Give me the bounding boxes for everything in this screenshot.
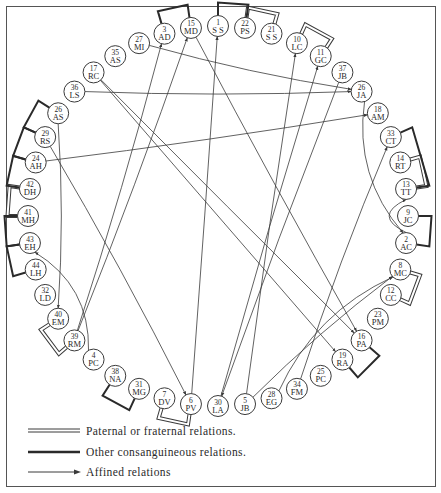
person-node: 36LS (64, 81, 85, 102)
node-initials: CC (385, 293, 397, 303)
person-node: 31MG (129, 378, 150, 399)
affined-relation-arrow (100, 80, 335, 351)
person-node: 27MI (129, 33, 150, 54)
person-node: 26JA (351, 81, 372, 102)
node-initials: LS (69, 90, 79, 100)
person-node: 19RA (332, 349, 353, 370)
node-initials: AS (53, 112, 64, 122)
person-node: 15MD (180, 17, 201, 38)
affined-relation-arrow (221, 66, 318, 396)
node-initials: PM (372, 317, 385, 327)
person-node: 22PS (235, 17, 256, 38)
person-node: 8MC (390, 259, 411, 280)
person-node: 21S S (261, 23, 282, 44)
legend-item-affined: Affined relations (28, 466, 171, 478)
legend-item-consanguineous: Other consanguineous relations. (28, 446, 246, 458)
node-initials: EM (52, 317, 65, 327)
node-initials: PS (240, 26, 250, 36)
node-initials: DV (158, 397, 171, 407)
affined-relation-arrow (50, 146, 186, 395)
node-initials: NA (109, 374, 122, 384)
person-node: 11GC (310, 46, 331, 67)
person-node: 41MH (18, 206, 39, 227)
person-node: 28EG (261, 388, 282, 409)
node-initials: RA (337, 358, 350, 368)
node-initials: DH (24, 187, 36, 197)
node-initials: PV (186, 403, 198, 413)
node-initials: AH (30, 161, 42, 171)
node-initials: RM (68, 339, 82, 349)
paternal-relations-layer (8, 8, 427, 425)
node-initials: LA (212, 405, 224, 415)
person-node: 26AS (48, 103, 69, 124)
person-node: 14RT (390, 152, 411, 173)
consanguineous-relation-line (218, 3, 248, 18)
node-initials: LC (291, 42, 302, 52)
node-initials: CT (385, 136, 397, 146)
person-node: 12CC (380, 284, 401, 305)
node-initials: AD (158, 32, 170, 42)
affined-relation-arrow (77, 44, 161, 331)
node-initials: S S (266, 32, 278, 42)
person-node: 13TT (396, 178, 417, 199)
affined-relation-arrow (85, 92, 351, 94)
person-node: 23PM (367, 308, 388, 329)
node-initials: PC (88, 358, 99, 368)
affined-relations-layer (35, 36, 406, 397)
affined-relation-arrow (301, 147, 388, 379)
affined-relation-arrow (247, 54, 296, 394)
node-initials: MH (21, 215, 35, 225)
person-node: 39RM (64, 330, 85, 351)
node-initials: LD (39, 293, 50, 303)
consanguineous-relation-line (5, 216, 20, 246)
node-initials: FM (291, 387, 304, 397)
person-node: 3AD (154, 23, 175, 44)
person-node: 9JC (398, 206, 419, 227)
legend-label-paternal: Paternal or fraternal relations. (86, 425, 236, 437)
legend-label-affined: Affined relations (86, 466, 171, 478)
node-initials: AC (400, 242, 412, 252)
node-initials: JA (357, 90, 367, 100)
person-node: 2AC (396, 233, 417, 254)
person-node: 40EM (48, 308, 69, 329)
thick-line-icon (28, 448, 82, 456)
person-node: 35AS (105, 46, 126, 67)
node-initials: AM (371, 112, 385, 122)
node-initials: PA (357, 339, 368, 349)
legend-label-consanguineous: Other consanguineous relations. (86, 446, 246, 458)
node-initials: JC (404, 215, 413, 225)
node-initials: RT (395, 161, 406, 171)
node-initials: MC (394, 268, 408, 278)
person-node: 37JB (332, 62, 353, 83)
person-node: 38NA (105, 365, 126, 386)
person-node: 18AM (367, 103, 388, 124)
affined-relation-arrow (101, 80, 354, 333)
person-node: 29RS (35, 127, 56, 148)
node-initials: MI (134, 42, 145, 52)
node-initials: MG (132, 387, 146, 397)
node-initials: AS (110, 55, 121, 65)
person-node: 43EH (19, 233, 40, 254)
affined-relation-arrow (222, 82, 339, 396)
arrow-line-icon (28, 468, 82, 476)
person-node: 44LH (25, 259, 46, 280)
node-initials: RS (40, 136, 51, 146)
node-initials: PC (316, 374, 327, 384)
node-initials: RC (88, 71, 100, 81)
person-node: 33CT (380, 127, 401, 148)
person-node: 5JB (235, 394, 256, 415)
person-node: 1S S (208, 16, 229, 37)
person-node: 24AH (25, 152, 46, 173)
person-node: 34FM (286, 378, 307, 399)
node-initials: MD (184, 26, 198, 36)
node-initials: EH (24, 242, 35, 252)
person-node: 7DV (154, 388, 175, 409)
person-node: 25PC (310, 365, 331, 386)
person-node: 10LC (286, 33, 307, 54)
kinship-network-diagram: 1S S22PS21S S10LC11GC37JB26JA18AM33CT14R… (0, 0, 441, 493)
affined-relation-arrow (58, 124, 61, 308)
affined-relation-arrow (192, 36, 218, 393)
person-node: 4PC (83, 349, 104, 370)
person-node: 17RC (83, 62, 104, 83)
person-node: 30LA (208, 396, 229, 417)
